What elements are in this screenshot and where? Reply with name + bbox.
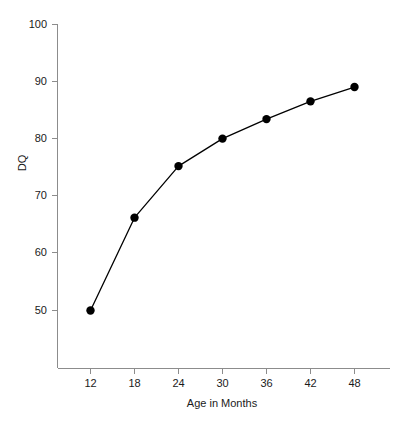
x-axis-title: Age in Months (187, 397, 258, 409)
y-axis-title: DQ (16, 154, 28, 171)
data-point-30-months (218, 134, 226, 142)
y-tick-label-70: 70 (35, 189, 47, 201)
x-tick-label-36: 36 (260, 377, 272, 389)
data-point-18-months (130, 213, 138, 221)
y-tick-label-80: 80 (35, 132, 47, 144)
chart-figure: 100 90 80 70 60 50 12 18 24 30 36 42 48 … (0, 0, 401, 425)
y-tick-label-90: 90 (35, 75, 47, 87)
data-point-12-months (86, 306, 94, 314)
data-point-24-months (174, 162, 182, 170)
data-point-36-months (262, 115, 270, 123)
x-tick-label-42: 42 (304, 377, 316, 389)
line-chart-canvas: 100 90 80 70 60 50 12 18 24 30 36 42 48 … (0, 0, 401, 425)
x-tick-label-30: 30 (216, 377, 228, 389)
x-tick-label-18: 18 (128, 377, 140, 389)
chart-background (0, 0, 401, 425)
data-point-42-months (306, 97, 314, 105)
x-tick-label-12: 12 (84, 377, 96, 389)
y-tick-label-60: 60 (35, 246, 47, 258)
data-point-48-months (350, 83, 358, 91)
x-tick-label-24: 24 (172, 377, 184, 389)
y-tick-label-100: 100 (29, 18, 47, 30)
y-tick-label-50: 50 (35, 304, 47, 316)
x-tick-label-48: 48 (348, 377, 360, 389)
